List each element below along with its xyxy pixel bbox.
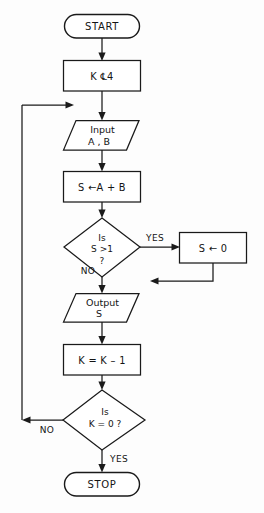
- connector-reset-s-return: [150, 263, 213, 285]
- branch-label-decision-s-no: NO: [81, 266, 95, 276]
- branch-label-decision-k-yes: YES: [109, 454, 128, 464]
- connector-decrement-to-decision-k: [98, 375, 105, 390]
- connector-output-to-decrement: [98, 322, 105, 345]
- node-stop[interactable]: STOP: [65, 473, 140, 497]
- connector-decision-s-yes: [140, 243, 180, 250]
- node-sum-label: S ←A + B: [78, 182, 126, 193]
- node-output[interactable]: Output S: [64, 294, 140, 323]
- node-sum[interactable]: S ←A + B: [64, 172, 141, 203]
- connector-start-to-initk: [98, 38, 105, 61]
- node-reset-s[interactable]: S ← 0: [180, 233, 247, 264]
- node-decision-k[interactable]: Is K = 0 ?: [63, 390, 145, 450]
- node-output-label-line2: S: [96, 308, 102, 319]
- node-decrement-k[interactable]: K = K – 1: [64, 345, 141, 376]
- node-stop-label: STOP: [88, 479, 117, 490]
- connector-decision-k-yes: [98, 450, 105, 473]
- node-decision-s[interactable]: Is S >1 ?: [64, 218, 140, 277]
- node-decision-k-line2: K = 0 ?: [89, 419, 122, 429]
- connector-decision-s-no: [98, 277, 105, 294]
- node-input-label-line2: A , B: [88, 136, 110, 147]
- node-start-label: START: [85, 21, 119, 32]
- node-init-k[interactable]: K ℄4: [64, 61, 141, 92]
- node-decision-s-line1: Is: [98, 233, 106, 243]
- node-decrement-k-label: K = K – 1: [78, 355, 125, 366]
- node-output-label-line1: Output: [86, 297, 119, 308]
- node-reset-s-label: S ← 0: [199, 243, 227, 254]
- node-input-label-line1: Input: [90, 124, 115, 135]
- branch-label-decision-k-no: NO: [40, 425, 54, 435]
- connector-sum-to-decision-s: [98, 202, 105, 218]
- node-init-k-label: K ℄4: [90, 71, 113, 82]
- node-decision-s-line2: S >1: [91, 244, 113, 254]
- connector-input-to-sum: [98, 150, 105, 172]
- node-start[interactable]: START: [65, 15, 140, 39]
- connector-initk-to-input: [98, 91, 105, 121]
- node-decision-k-line1: Is: [101, 407, 109, 417]
- branch-label-decision-s-yes: YES: [145, 233, 164, 243]
- node-input[interactable]: Input A , B: [64, 121, 140, 151]
- flowchart-canvas: START K ℄4 Input A , B S ←A + B Is S >1 …: [0, 0, 264, 513]
- flowchart-svg: START K ℄4 Input A , B S ←A + B Is S >1 …: [0, 0, 264, 513]
- connector-decision-k-no: [22, 416, 63, 423]
- node-decision-s-line3: ?: [100, 256, 105, 266]
